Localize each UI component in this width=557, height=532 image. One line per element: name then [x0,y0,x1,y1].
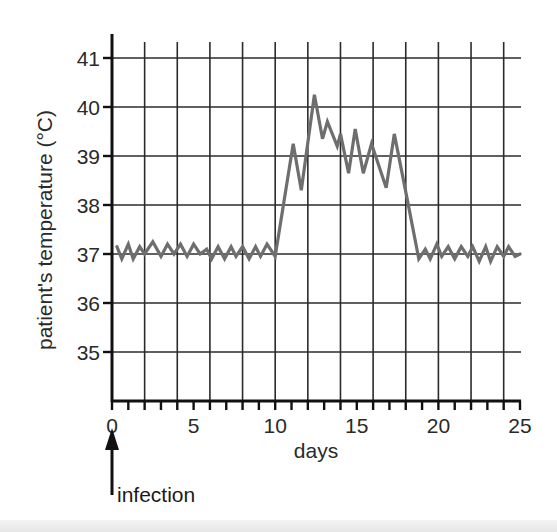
y-tick-label: 39 [77,145,100,168]
x-tick-label: 25 [508,414,531,437]
x-tick-label: 20 [427,414,450,437]
y-tick-label: 41 [77,47,100,70]
x-axis-title: days [294,439,338,462]
x-tick-label: 15 [345,414,368,437]
axes [103,34,521,410]
x-tick-label: 5 [188,414,200,437]
infection-label: infection [117,483,195,506]
grid-lines [112,42,521,401]
y-tick-label: 35 [77,341,100,364]
y-tick-label: 36 [77,292,100,315]
y-tick-label: 37 [77,243,100,266]
temperature-chart: 051015202535363738394041 patient's tempe… [0,0,557,532]
y-tick-label: 40 [77,96,100,119]
x-tick-label: 10 [264,414,287,437]
y-axis-title: patient's temperature (°C) [33,110,56,350]
y-tick-label: 38 [77,194,100,217]
bottom-edge [0,520,557,532]
